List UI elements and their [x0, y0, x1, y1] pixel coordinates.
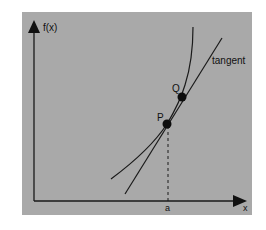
- point-p-label: P: [157, 113, 164, 123]
- function-curve: [111, 27, 193, 179]
- x-marker-label: a: [165, 204, 170, 213]
- tangent-line: [125, 38, 222, 194]
- diagram-canvas: [0, 0, 266, 230]
- tangent-label: tangent: [212, 56, 245, 66]
- point-q-label: Q: [172, 84, 180, 94]
- y-axis-arrow-icon: [28, 20, 40, 33]
- x-axis-label: x: [243, 204, 248, 213]
- y-axis-label: f(x): [43, 23, 57, 33]
